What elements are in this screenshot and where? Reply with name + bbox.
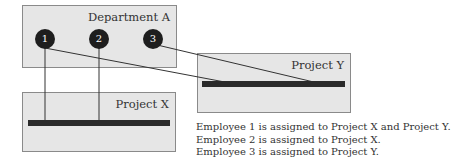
employee-node-3: 3 (143, 29, 163, 49)
connector-e3-py (153, 44, 318, 83)
caption-employee-3: Employee 3 is assigned to Project Y. (196, 146, 451, 159)
employee-node-1: 1 (35, 29, 55, 49)
caption-employee-2: Employee 2 is assigned to Project X. (196, 134, 451, 147)
connector-e1-py (45, 48, 230, 83)
caption-employee-1: Employee 1 is assigned to Project X and … (196, 121, 451, 134)
project-y-bar (202, 81, 345, 87)
project-x-bar (28, 120, 170, 126)
employee-node-2: 2 (89, 29, 109, 49)
assignment-captions: Employee 1 is assigned to Project X and … (196, 121, 451, 159)
